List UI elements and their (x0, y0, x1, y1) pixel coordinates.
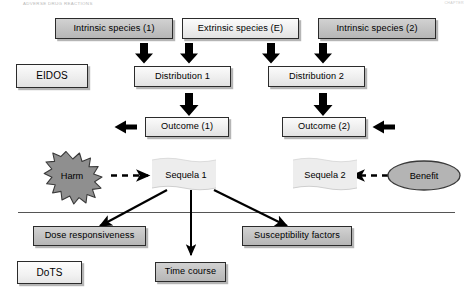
connector-layer (0, 0, 473, 297)
block-arrow-distribution2-outcome2 (314, 93, 333, 116)
node-intrinsic-species-1[interactable]: Intrinsic species (1) (55, 18, 173, 39)
node-benefit-label: Benefit (404, 171, 444, 181)
block-arrow-outcome2-inward (373, 121, 396, 134)
node-distribution-2[interactable]: Distribution 2 (268, 66, 365, 87)
node-outcome-2-label: Outcome (2) (298, 122, 350, 131)
node-dose-responsiveness[interactable]: Dose responsiveness (33, 226, 146, 246)
block-arrow-extrinsic-distribution1 (180, 43, 198, 64)
node-outcome-2[interactable]: Outcome (2) (282, 117, 366, 137)
node-time-course-label: Time course (165, 267, 216, 276)
block-arrow-extrinsic-distribution2 (262, 43, 280, 64)
node-intrinsic-species-2[interactable]: Intrinsic species (2) (318, 18, 436, 39)
diagram-page: ADVERSE DRUG REACTIONS CHAPTER (0, 0, 473, 297)
node-time-course[interactable]: Time course (155, 262, 226, 282)
section-label-dots[interactable]: DoTS (17, 261, 82, 284)
node-dose-responsiveness-label: Dose responsiveness (45, 231, 135, 240)
node-distribution-2-label: Distribution 2 (289, 72, 344, 81)
thin-arrow-sequela1-susceptibility (214, 190, 287, 226)
node-distribution-1[interactable]: Distribution 1 (134, 66, 231, 87)
node-extrinsic-species-e-label: Extrinsic species (E) (198, 24, 283, 33)
node-susceptibility-factors[interactable]: Susceptibility factors (242, 226, 352, 246)
node-sequela-1-label: Sequela 1 (160, 170, 212, 180)
node-extrinsic-species-e[interactable]: Extrinsic species (E) (182, 18, 299, 39)
block-arrow-distribution1-outcome1 (180, 93, 199, 116)
thin-arrow-sequela1-dose (100, 190, 167, 226)
block-arrow-intrinsic1-distribution1 (135, 43, 153, 64)
node-susceptibility-factors-label: Susceptibility factors (254, 231, 340, 240)
node-harm-label: Harm (52, 171, 92, 181)
section-label-eidos[interactable]: EIDOS (16, 64, 88, 88)
block-arrow-outcome1-left (115, 121, 138, 134)
node-outcome-1[interactable]: Outcome (1) (145, 117, 229, 137)
node-intrinsic-species-2-label: Intrinsic species (2) (336, 24, 417, 33)
node-sequela-2-label: Sequela 2 (299, 170, 351, 180)
block-arrow-intrinsic2-distribution2 (314, 43, 332, 64)
section-label-dots-text: DoTS (37, 268, 63, 278)
node-outcome-1-label: Outcome (1) (161, 122, 213, 131)
section-label-eidos-text: EIDOS (36, 71, 68, 81)
node-distribution-1-label: Distribution 1 (155, 72, 210, 81)
node-intrinsic-species-1-label: Intrinsic species (1) (73, 24, 154, 33)
